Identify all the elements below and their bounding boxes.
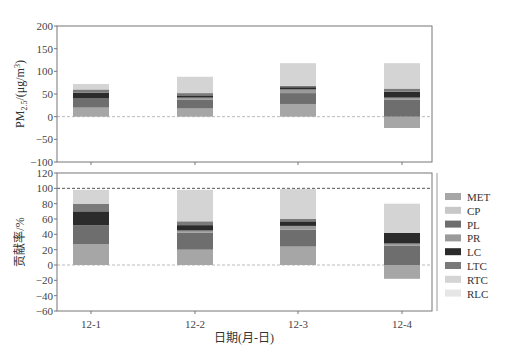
bar-segment-met xyxy=(384,117,420,128)
y-tick-label: 120 xyxy=(37,167,54,179)
legend-label: RTC xyxy=(467,274,488,286)
legend-item-ltc: LTC xyxy=(445,260,487,272)
y-tick-label: −60 xyxy=(36,305,54,317)
bar-segment-pl xyxy=(73,99,109,108)
legend-swatch xyxy=(445,234,461,241)
bar-segment-ltc xyxy=(177,93,213,95)
bar-segment-lc xyxy=(73,93,109,99)
legend-label: PL xyxy=(467,219,480,231)
bottom-panel-contribution: −60−40−2002040608010012012-112-212-312-4… xyxy=(12,167,432,330)
legend-swatch xyxy=(445,276,461,283)
top-panel-pm25: −100−50050100150200PM2.5/(μg/m3) xyxy=(13,20,432,168)
stacked-bar-chart: −100−50050100150200PM2.5/(μg/m3) −60−40−… xyxy=(0,0,508,359)
bar-12-1 xyxy=(73,84,109,117)
legend-label: LC xyxy=(467,246,481,258)
bar-segment-rtc xyxy=(73,190,109,204)
bar-segment-met xyxy=(280,247,316,265)
bar-segment-ltc xyxy=(384,89,420,92)
x-tick-label: 12-1 xyxy=(81,318,101,330)
legend-item-rtc: RTC xyxy=(445,274,488,286)
bar-12-4 xyxy=(384,204,420,279)
y-tick-label: 150 xyxy=(37,43,54,55)
bar-segment-pl xyxy=(73,225,109,244)
y-axis-title: PM2.5/(μg/m3) xyxy=(13,60,29,128)
bar-segment-met xyxy=(73,244,109,265)
legend-swatch xyxy=(445,193,461,200)
legend-item-rlc: RLC xyxy=(445,288,488,300)
y-tick-label: 40 xyxy=(42,228,54,240)
bar-segment-pr xyxy=(280,226,316,230)
x-tick-label: 12-4 xyxy=(392,318,413,330)
legend-label: PR xyxy=(467,232,481,244)
bar-segment-lc xyxy=(384,92,420,98)
bar-segment-pl xyxy=(384,246,420,265)
y-tick-label: 200 xyxy=(37,20,54,32)
plot-frame xyxy=(57,173,432,311)
legend-swatch xyxy=(445,221,461,228)
bar-segment-lc xyxy=(73,211,109,225)
bar-segment-pl xyxy=(384,99,420,116)
legend-label: MET xyxy=(467,191,491,203)
bar-segment-ltc xyxy=(73,204,109,212)
bar-segment-lc xyxy=(280,87,316,89)
y-tick-label: −40 xyxy=(36,290,54,302)
y-tick-label: 100 xyxy=(37,65,54,77)
x-tick-label: 12-3 xyxy=(288,318,309,330)
bar-12-2 xyxy=(177,190,213,265)
y-axis-title: 贡献率/% xyxy=(12,217,27,266)
legend-swatch xyxy=(445,262,461,269)
bar-segment-rtc xyxy=(280,63,316,86)
x-axis-title: 日期(月-日) xyxy=(214,331,274,345)
bar-segment-pr xyxy=(384,244,420,246)
bar-segment-rtc xyxy=(280,189,316,219)
bar-segment-ltc xyxy=(280,86,316,87)
bar-segment-rtc xyxy=(384,63,420,88)
legend-swatch xyxy=(445,248,461,255)
bar-segment-lc xyxy=(177,95,213,97)
y-tick-label: 100 xyxy=(37,182,54,194)
bar-segment-rtc xyxy=(177,190,213,221)
bar-segment-pl xyxy=(177,233,213,250)
bar-segment-pl xyxy=(177,99,213,108)
legend-label: RLC xyxy=(467,288,488,300)
bar-segment-ltc xyxy=(280,219,316,221)
legend-swatch xyxy=(445,207,461,214)
bar-segment-ltc xyxy=(177,221,213,225)
y-tick-label: −50 xyxy=(36,133,54,145)
bar-segment-pl xyxy=(280,93,316,104)
bar-segment-pl xyxy=(280,230,316,247)
bar-segment-met xyxy=(177,109,213,117)
bar-segment-lc xyxy=(384,233,420,244)
x-tick-label: 12-2 xyxy=(185,318,205,330)
bar-segment-met xyxy=(384,265,420,279)
bar-segment-met xyxy=(73,108,109,117)
bar-segment-pr xyxy=(177,231,213,233)
bar-segment-pr xyxy=(177,98,213,100)
bar-segment-ltc xyxy=(73,89,109,92)
y-tick-label: −20 xyxy=(36,274,54,286)
bar-segment-rtc xyxy=(384,204,420,233)
y-tick-label: 60 xyxy=(42,213,54,225)
legend-item-pl: PL xyxy=(445,219,480,231)
y-tick-label: 50 xyxy=(42,88,54,100)
y-tick-label: 80 xyxy=(42,198,54,210)
legend-label: LTC xyxy=(467,260,487,272)
legend-item-cp: CP xyxy=(445,205,480,217)
bar-segment-rtc xyxy=(73,84,109,89)
y-tick-label: 0 xyxy=(48,259,54,271)
legend-item-pr: PR xyxy=(445,232,481,244)
bar-12-3 xyxy=(280,63,316,116)
bar-segment-lc xyxy=(177,225,213,230)
legend-item-met: MET xyxy=(445,191,491,203)
y-tick-label: 20 xyxy=(42,244,54,256)
plot-frame xyxy=(57,26,432,162)
bar-segment-met xyxy=(177,250,213,265)
bar-segment-met xyxy=(280,104,316,117)
bar-segment-pr xyxy=(280,89,316,93)
bar-segment-rtc xyxy=(177,77,213,93)
bar-segment-pr xyxy=(384,98,420,100)
bar-12-4 xyxy=(384,63,420,128)
legend-swatch xyxy=(445,290,461,297)
legend-item-lc: LC xyxy=(445,246,481,258)
bar-segment-lc xyxy=(280,221,316,226)
